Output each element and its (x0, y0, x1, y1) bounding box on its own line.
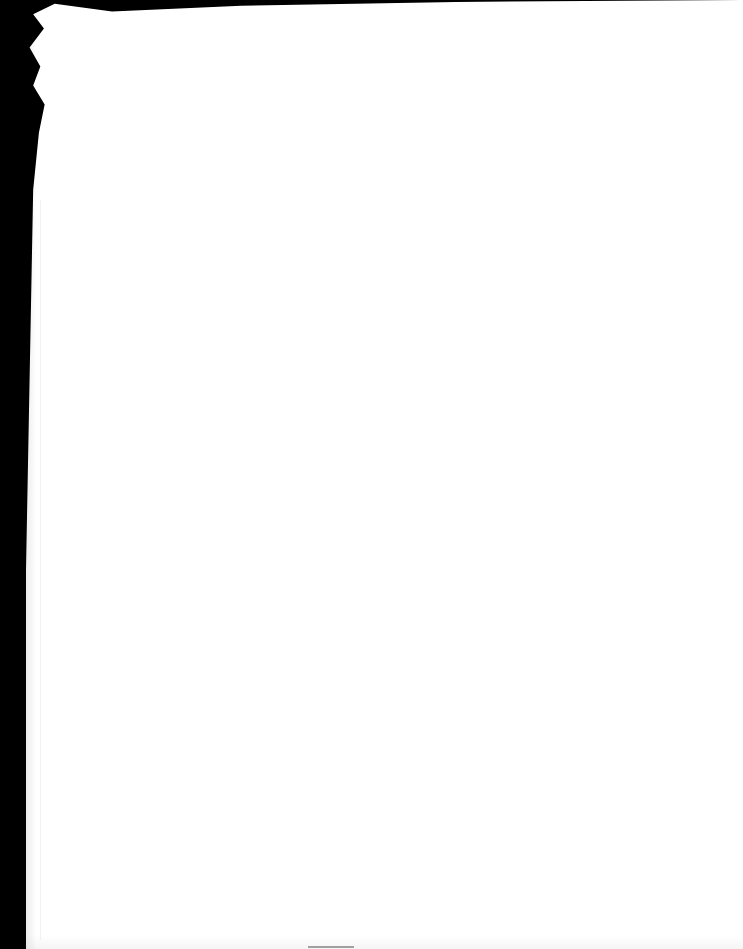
blank-paper-sheet (26, 0, 743, 949)
scanned-page (0, 0, 743, 949)
